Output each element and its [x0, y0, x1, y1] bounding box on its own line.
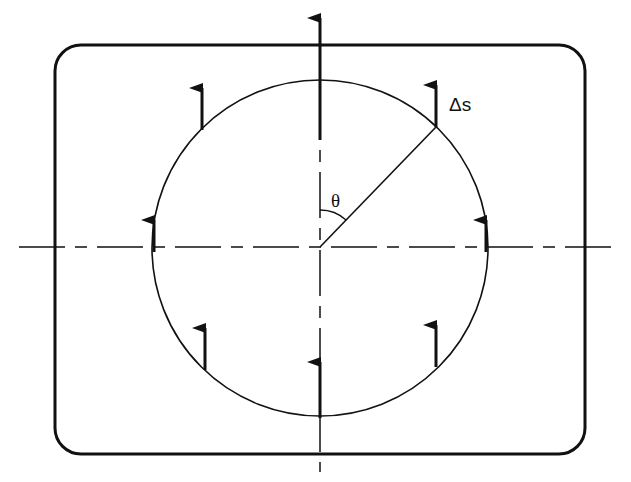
theta-label: θ	[331, 190, 340, 212]
delta-s-label: Δs	[449, 94, 471, 116]
diagram-canvas	[0, 0, 631, 482]
radius-line	[320, 127, 436, 247]
